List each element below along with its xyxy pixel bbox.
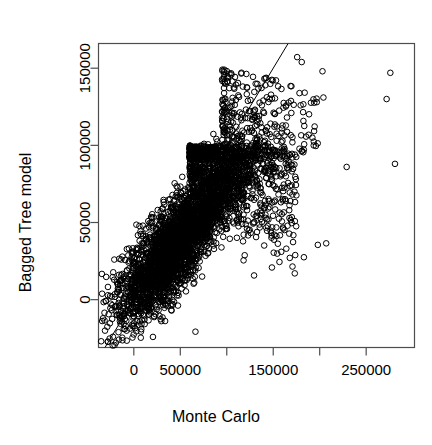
svg-text:150000: 150000 [76, 43, 93, 93]
svg-text:50000: 50000 [76, 202, 93, 244]
svg-text:50000: 50000 [159, 361, 201, 378]
x-axis-ticks [134, 348, 366, 356]
svg-text:250000: 250000 [341, 361, 391, 378]
svg-text:0: 0 [76, 295, 93, 303]
x-axis-tick-labels: 050000150000250000 [130, 361, 392, 378]
svg-text:150000: 150000 [248, 361, 298, 378]
svg-text:100000: 100000 [76, 120, 93, 170]
scatter-plot-figure: 050000150000250000 050000100000150000 Mo… [0, 0, 432, 445]
y-axis-ticks [91, 68, 99, 299]
y-axis-title-text: Bagged Tree model [12, 153, 40, 293]
svg-text:0: 0 [130, 361, 138, 378]
y-axis-tick-labels: 050000100000150000 [76, 43, 93, 304]
plot-canvas: 050000150000250000 050000100000150000 [0, 0, 432, 445]
scatter-points [98, 54, 397, 348]
y-axis-title: Bagged Tree model [12, 0, 40, 445]
x-axis-title: Monte Carlo [0, 408, 432, 426]
